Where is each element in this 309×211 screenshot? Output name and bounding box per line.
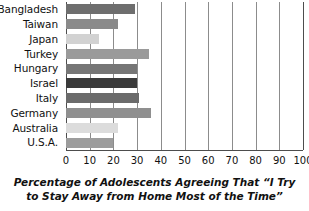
x-tick-label: 20	[107, 154, 120, 168]
bar-row	[66, 61, 303, 76]
x-tick-label: 50	[178, 154, 191, 168]
bar-row	[66, 91, 303, 106]
category-label: Israel	[0, 76, 62, 91]
category-label: Taiwan	[0, 17, 62, 32]
category-label: Australia	[0, 120, 62, 135]
category-axis-labels: BangladeshTaiwanJapanTurkeyHungaryIsrael…	[0, 2, 62, 150]
bar-row	[66, 106, 303, 121]
bar	[66, 4, 135, 14]
x-tick-label: 90	[273, 154, 286, 168]
bar	[66, 64, 137, 74]
bar	[66, 78, 137, 88]
bar-chart-figure: BangladeshTaiwanJapanTurkeyHungaryIsrael…	[0, 0, 309, 211]
bar-row	[66, 32, 303, 47]
x-axis-tick-labels: 0102030405060708090100	[66, 154, 303, 168]
category-label: U.S.A.	[0, 135, 62, 150]
bar-row	[66, 135, 303, 150]
bar	[66, 19, 118, 29]
caption-line-1: Percentage of Adolescents Agreeing That …	[10, 176, 299, 190]
bar-row	[66, 76, 303, 91]
x-tick-label: 80	[249, 154, 262, 168]
bar	[66, 34, 99, 44]
x-tick-label: 40	[154, 154, 167, 168]
bar-series	[66, 2, 303, 150]
x-tick-label: 70	[226, 154, 239, 168]
bar	[66, 108, 151, 118]
category-label: Bangladesh	[0, 2, 62, 17]
category-label: Germany	[0, 106, 62, 121]
bar-row	[66, 17, 303, 32]
bar	[66, 123, 118, 133]
plot-area	[66, 2, 303, 150]
gridline-100	[303, 2, 304, 150]
bar-row	[66, 2, 303, 17]
bar	[66, 93, 139, 103]
x-tick-label: 0	[63, 154, 69, 168]
category-label: Japan	[0, 32, 62, 47]
x-tick-label: 100	[293, 154, 309, 168]
chart-caption: Percentage of Adolescents Agreeing That …	[0, 176, 309, 203]
category-label: Hungary	[0, 61, 62, 76]
bar	[66, 49, 149, 59]
bar	[66, 138, 113, 148]
caption-line-2: to Stay Away from Home Most of the Time”	[10, 190, 299, 204]
x-tick-label: 60	[202, 154, 215, 168]
bar-row	[66, 120, 303, 135]
x-tick-label: 30	[131, 154, 144, 168]
category-label: Italy	[0, 91, 62, 106]
bar-row	[66, 46, 303, 61]
x-tick-label: 10	[83, 154, 96, 168]
x-axis-line	[66, 150, 303, 151]
category-label: Turkey	[0, 46, 62, 61]
